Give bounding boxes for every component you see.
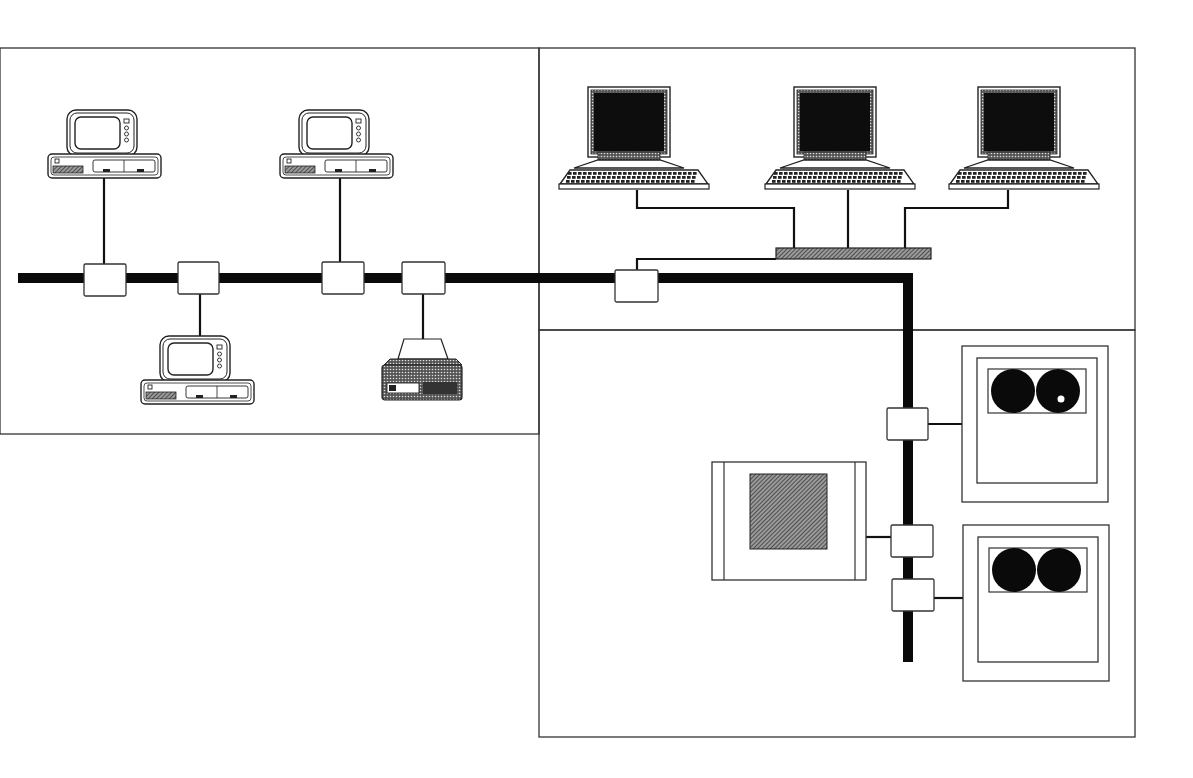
tap-printer-box [402, 262, 445, 294]
tap-disk-2-box [892, 579, 934, 611]
desktop-computer-icon [280, 110, 393, 178]
hub-cable-4 [637, 259, 776, 270]
hub-cable-1 [637, 190, 794, 248]
tape-storage-unit-icon [712, 462, 866, 580]
disk-drive-unit-icon [963, 525, 1109, 681]
tap-pc-1-box [84, 264, 126, 296]
desktop-computer-icon [48, 110, 161, 178]
devices [48, 87, 1109, 681]
hub-cable-3 [905, 190, 1008, 248]
network-diagram [0, 0, 1193, 778]
terminal-workstation-icon [559, 87, 709, 189]
tap-disk-1-box [887, 408, 928, 440]
terminal-workstation-icon [949, 87, 1099, 189]
tap-tape-box [891, 525, 933, 557]
printer-icon [382, 339, 462, 400]
tap-pc-3-box [178, 262, 219, 294]
tap-hub-box [615, 270, 658, 302]
hub-concentrator-icon [776, 248, 931, 259]
disk-drive-unit-icon [962, 346, 1108, 502]
network-diagram-canvas [0, 0, 1193, 778]
tap-pc-2-box [322, 262, 364, 294]
desktop-computer-icon [141, 336, 254, 404]
terminal-workstation-icon [765, 87, 915, 189]
